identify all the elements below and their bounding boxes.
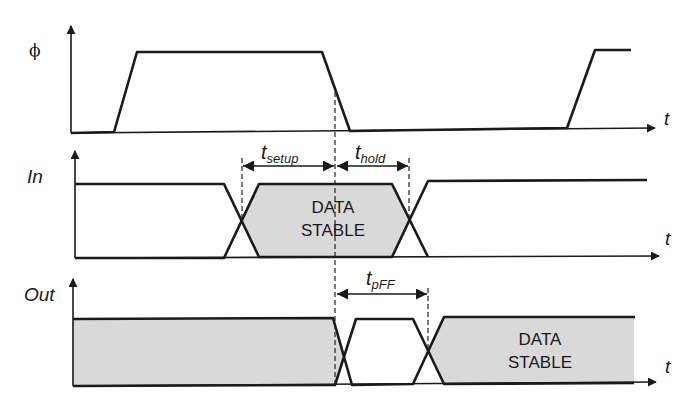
phi-label: ϕ: [29, 40, 41, 60]
setup-time-label: tsetup: [261, 141, 298, 166]
in-label: In: [27, 166, 43, 187]
propagation-delay-label: tpFF: [366, 267, 396, 292]
out-stable-text-line1: DATA: [519, 330, 562, 349]
out-stable-region-before: [73, 318, 344, 386]
phi-signal: [71, 50, 631, 133]
in-stable-text-line1: DATA: [312, 198, 355, 217]
out-stable-text-line2: STABLE: [508, 353, 572, 372]
timing-diagram: ϕ t In t DATA STABLE Out t DATA STABLE: [0, 0, 697, 408]
in-stable-text-line2: STABLE: [301, 221, 365, 240]
in-time-label: t: [665, 228, 671, 249]
out-time-label: t: [665, 356, 671, 377]
out-label: Out: [24, 284, 55, 305]
out-waveform-group: Out t DATA STABLE: [24, 279, 671, 386]
hold-time-label: thold: [355, 141, 386, 166]
in-waveform-group: In t DATA STABLE: [27, 151, 671, 258]
out-stable-region-after: [428, 317, 634, 384]
phi-time-label: t: [664, 108, 670, 129]
phi-waveform-group: ϕ t: [29, 26, 670, 133]
